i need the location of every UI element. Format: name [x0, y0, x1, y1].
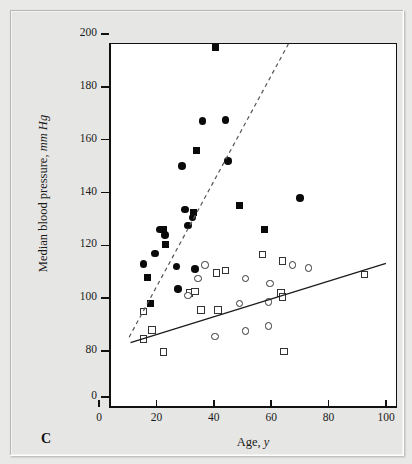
data-point-open-square: [197, 306, 205, 314]
data-point-filled-circle: [224, 157, 232, 165]
x-tick-label-20: 20: [136, 411, 176, 423]
y-tick-label-wrap: 80: [57, 343, 97, 344]
x-tick-label-0: 0: [79, 411, 119, 423]
x-tick-0: [98, 400, 100, 407]
data-point-filled-circle: [199, 117, 207, 125]
y-tick-label-wrap: 120: [57, 237, 97, 238]
panel-label: C: [41, 431, 51, 447]
x-axis-title-units: y: [264, 435, 270, 449]
y-axis-title-units: mm Hg: [36, 115, 50, 151]
data-point-open-circle: [265, 322, 273, 330]
data-point-filled-circle: [178, 162, 186, 170]
x-tick-100: [385, 400, 387, 407]
y-tick-label-120: 120: [57, 237, 97, 249]
y-tick-140: [101, 192, 109, 194]
y-tick-label-wrap: 180: [57, 79, 97, 80]
y-tick-180: [101, 86, 109, 88]
data-point-filled-square: [144, 274, 151, 281]
x-tick-label-80: 80: [309, 411, 349, 423]
data-point-filled-circle: [140, 260, 148, 268]
data-point-open-circle: [305, 264, 313, 272]
data-point-open-circle: [266, 280, 274, 288]
data-point-filled-circle: [174, 285, 182, 293]
y-tick-label-200: 200: [57, 26, 97, 38]
data-point-filled-circle: [184, 222, 192, 230]
data-point-filled-circle: [191, 265, 199, 273]
y-tick-label-wrap: 160: [57, 132, 97, 133]
y-tick-100: [101, 297, 109, 299]
data-point-open-square: [361, 271, 369, 279]
data-point-open-square: [214, 306, 222, 314]
data-point-filled-circle: [161, 231, 169, 239]
data-point-open-circle: [201, 261, 209, 269]
x-tick-80: [328, 400, 330, 407]
data-point-open-square: [191, 288, 199, 296]
data-point-filled-circle: [296, 194, 304, 202]
data-point-open-square: [259, 251, 267, 259]
y-tick-label-wrap: 140: [57, 185, 97, 186]
y-axis-line: [109, 43, 111, 407]
y-tick-label-100: 100: [57, 290, 97, 302]
y-tick-label-wrap: 0: [57, 389, 97, 390]
data-point-open-square: [140, 335, 148, 343]
y-tick-label-0: 0: [57, 389, 97, 401]
figure-root: Median blood pressure, mm Hg Age, y C 08…: [0, 0, 412, 464]
data-point-open-square: [213, 269, 221, 277]
x-tick-label-40: 40: [194, 411, 234, 423]
y-tick-label-wrap: 200: [57, 26, 97, 27]
x-axis-title: Age, y: [109, 435, 397, 450]
y-tick-120: [101, 245, 109, 247]
x-tick-label-100: 100: [366, 411, 406, 423]
data-point-open-circle: [265, 298, 273, 306]
y-tick-label-80: 80: [57, 343, 97, 355]
data-point-open-square: [279, 293, 287, 301]
data-point-open-square: [160, 348, 168, 356]
y-axis-title-plain: Median blood pressure,: [36, 151, 50, 272]
y-tick-80: [101, 350, 109, 352]
data-point-open-square: [279, 257, 287, 265]
x-axis-line: [109, 406, 397, 408]
y-tick-label-160: 160: [57, 132, 97, 144]
y-tick-160: [101, 139, 109, 141]
data-point-filled-square: [193, 147, 200, 154]
plot-area: [109, 43, 397, 408]
x-axis-title-plain: Age,: [237, 435, 264, 449]
figure-panel: Median blood pressure, mm Hg Age, y C 08…: [10, 10, 404, 456]
data-point-filled-square: [261, 226, 268, 233]
y-tick-0: [101, 396, 109, 398]
data-point-open-circle: [242, 327, 250, 335]
x-tick-label-60: 60: [251, 411, 291, 423]
y-tick-200: [101, 33, 109, 35]
y-tick-label-wrap: 100: [57, 290, 97, 291]
data-point-filled-circle: [151, 250, 159, 258]
data-point-filled-square: [236, 202, 243, 209]
data-point-open-square: [140, 308, 148, 316]
data-point-filled-square: [147, 300, 154, 307]
data-point-filled-circle: [222, 116, 230, 124]
y-tick-label-180: 180: [57, 79, 97, 91]
data-point-open-circle: [194, 275, 202, 283]
data-point-open-square: [280, 348, 288, 356]
data-point-open-square: [222, 267, 230, 275]
x-tick-20: [156, 400, 158, 407]
data-point-open-circle: [184, 292, 192, 300]
data-point-open-square: [148, 326, 156, 334]
x-tick-40: [213, 400, 215, 407]
data-point-filled-square: [162, 241, 169, 248]
x-tick-60: [270, 400, 272, 407]
y-axis-title: Median blood pressure, mm Hg: [36, 74, 51, 314]
data-point-filled-square: [212, 44, 219, 51]
y-tick-label-140: 140: [57, 185, 97, 197]
